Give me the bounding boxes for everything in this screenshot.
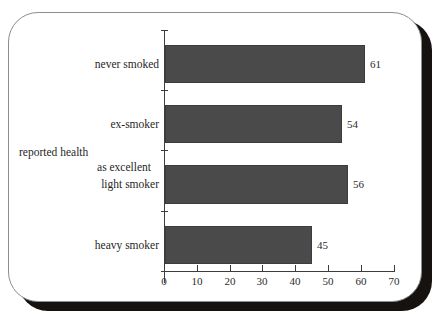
- chart-frame: 0 10 20 30 40 50 60 70 61 54 56 45 never…: [8, 12, 422, 302]
- bar-value-label: 56: [353, 178, 364, 190]
- chart-figure: 0 10 20 30 40 50 60 70 61 54 56 45 never…: [0, 0, 442, 326]
- bar-heavy-smoker: [165, 226, 312, 264]
- x-tick-label: 30: [257, 275, 268, 287]
- y-axis-title-line-1: reported health: [15, 145, 159, 160]
- x-axis-tick: [230, 265, 231, 272]
- x-tick-label: 10: [192, 275, 203, 287]
- bar-light-smoker: [165, 165, 348, 204]
- x-tick-label: 50: [323, 275, 334, 287]
- x-axis-tick: [394, 265, 395, 272]
- category-label-heavy-smoker: heavy smoker: [95, 239, 159, 251]
- x-axis-line: [164, 271, 394, 272]
- x-axis-tick: [328, 265, 329, 272]
- x-axis-tick: [197, 265, 198, 272]
- y-axis-title: reported health as excellent: [15, 145, 159, 175]
- x-axis-tick: [361, 265, 362, 272]
- bar-value-label: 61: [370, 58, 381, 70]
- category-label-light-smoker: light smoker: [101, 178, 159, 190]
- x-tick-label: 70: [389, 275, 400, 287]
- y-axis-title-line-2: as excellent: [15, 160, 159, 175]
- bar-ex-smoker: [165, 105, 342, 143]
- x-axis-tick: [164, 265, 165, 272]
- x-tick-label: 40: [290, 275, 301, 287]
- y-axis-tick: [161, 90, 168, 91]
- x-axis-tick: [295, 265, 296, 272]
- category-label-never-smoked: never smoked: [95, 58, 159, 70]
- x-tick-label: 60: [356, 275, 367, 287]
- bar-value-label: 45: [317, 239, 328, 251]
- bar-value-label: 54: [347, 118, 358, 130]
- x-tick-label: 0: [161, 275, 167, 287]
- plot-area: 0 10 20 30 40 50 60 70 61 54 56 45 never…: [9, 13, 422, 302]
- bar-never-smoked: [165, 45, 365, 83]
- x-axis-tick: [262, 265, 263, 272]
- y-axis-tick: [161, 30, 168, 31]
- x-tick-label: 20: [225, 275, 236, 287]
- y-axis-tick: [161, 211, 168, 212]
- y-axis-tick: [161, 150, 168, 151]
- category-label-ex-smoker: ex-smoker: [110, 118, 159, 130]
